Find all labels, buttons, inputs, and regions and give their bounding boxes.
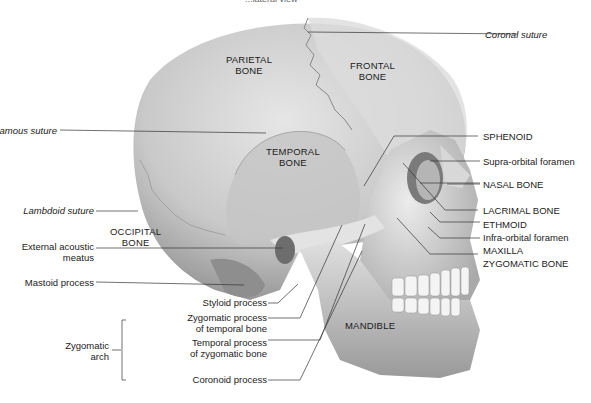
skull-lateral-diagram: ...lateral view [0, 0, 591, 403]
coronal-suture-label: Coronal suture [485, 29, 547, 40]
parietal-bone-label: PARIETAL BONE [226, 54, 272, 76]
zyg-proc-line2: of temporal bone [187, 323, 267, 334]
parietal-line2: BONE [226, 65, 272, 76]
zyg-proc-line1: Zygomatic process [187, 312, 267, 323]
occipital-line1: OCCIPITAL [110, 226, 161, 237]
squamous-suture-label: Squamous suture [0, 125, 57, 136]
maxilla-label: MAXILLA [483, 245, 523, 256]
temporal-process-zygomatic-label: Temporal process of zygomatic bone [190, 337, 267, 359]
styloid-process-label: Styloid process [203, 297, 267, 308]
lambdoid-suture-label: Lambdoid suture [23, 205, 94, 216]
temporal-line1: TEMPORAL [266, 146, 320, 157]
occipital-line2: BONE [110, 237, 161, 248]
temp-proc-line1: Temporal process [190, 337, 267, 348]
infraorbital-foramen-label: Infra-orbital foramen [483, 232, 569, 243]
frontal-line1: FRONTAL [350, 60, 395, 71]
zygomatic-arch-label: Zygomatic arch [65, 340, 109, 362]
arch-line2: arch [65, 351, 109, 362]
frontal-bone-label: FRONTAL BONE [350, 60, 395, 82]
ethmoid-label: ETHMOID [483, 219, 527, 230]
ext-acoustic-line1: External acoustic [22, 241, 94, 252]
temporal-line2: BONE [266, 157, 320, 168]
zygomatic-process-temporal-label: Zygomatic process of temporal bone [187, 312, 267, 334]
occipital-bone-label: OCCIPITAL BONE [110, 226, 161, 248]
mastoid-process-label: Mastoid process [25, 277, 94, 288]
nasal-bone-label: NASAL BONE [483, 179, 543, 190]
mandible-label: MANDIBLE [345, 320, 395, 331]
coronoid-process-label: Coronoid process [193, 374, 267, 385]
external-acoustic-meatus-label: External acoustic meatus [22, 241, 94, 263]
lacrimal-bone-label: LACRIMAL BONE [483, 205, 560, 216]
frontal-line2: BONE [350, 71, 395, 82]
ext-acoustic-line2: meatus [22, 252, 94, 263]
supraorbital-foramen-label: Supra-orbital foramen [483, 156, 575, 167]
arch-line1: Zygomatic [65, 340, 109, 351]
temporal-bone-label: TEMPORAL BONE [266, 146, 320, 168]
sphenoid-label: SPHENOID [483, 131, 533, 142]
temp-proc-line2: of zygomatic bone [190, 348, 267, 359]
zygomatic-bone-label: ZYGOMATIC BONE [483, 258, 568, 269]
parietal-line1: PARIETAL [226, 54, 272, 65]
